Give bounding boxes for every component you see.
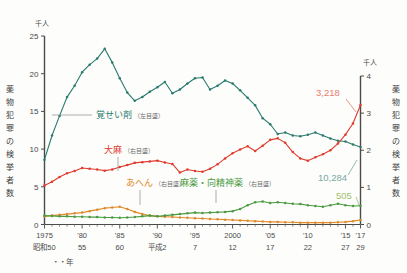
series-point xyxy=(96,216,99,219)
axis-title-char: 罪 xyxy=(6,124,14,133)
series-point xyxy=(254,104,257,107)
series-point xyxy=(118,217,121,220)
x-tick-label-japanese-era: 29 xyxy=(356,243,364,252)
series-point xyxy=(51,215,54,218)
series-point xyxy=(103,207,106,210)
series-point xyxy=(164,214,167,217)
left-tick-label: 20 xyxy=(30,70,39,79)
series-point xyxy=(179,216,182,219)
series-point xyxy=(322,221,325,224)
x-tick-label-western: '90 xyxy=(152,231,162,240)
left-axis-ticks: 2520151050 xyxy=(30,32,45,230)
x-tick-label-western: '95 xyxy=(190,231,200,240)
axis-title-char: 検 xyxy=(392,149,400,159)
right-tick-label: 4 xyxy=(367,72,372,81)
series-point xyxy=(194,211,197,214)
series-point xyxy=(73,212,76,215)
series-point xyxy=(194,217,197,220)
series-point xyxy=(344,204,347,207)
axis-title-char: 物 xyxy=(6,97,14,107)
x-tick-label-japanese-era: 60 xyxy=(116,243,124,252)
series-point xyxy=(51,181,54,184)
series-point xyxy=(246,204,249,207)
series-point xyxy=(322,134,325,137)
axis-title-char: 犯 xyxy=(392,110,400,120)
series-point xyxy=(73,85,76,88)
axis-title-char: 薬 xyxy=(392,84,400,94)
left-tick-label: 5 xyxy=(34,183,39,192)
series-point xyxy=(96,57,99,60)
series-point xyxy=(284,221,287,224)
series-point xyxy=(134,162,137,165)
series-point xyxy=(337,202,340,205)
series-point xyxy=(239,208,242,211)
series-point xyxy=(261,220,264,223)
series-point xyxy=(141,215,144,218)
axis-title-char: 罪 xyxy=(392,124,400,133)
series-point xyxy=(111,168,114,171)
series-point xyxy=(186,212,189,215)
series-point xyxy=(239,219,242,222)
series-point xyxy=(194,170,197,173)
series-point xyxy=(134,216,137,219)
x-tick-label-japanese-era: 22 xyxy=(304,243,312,252)
legend-label-覚せい剤: 覚せい剤（左目盛） xyxy=(96,109,164,120)
series-point xyxy=(359,104,362,107)
series-point xyxy=(141,161,144,164)
series-point xyxy=(186,217,189,220)
series-point xyxy=(73,215,76,218)
x-tick-label-japanese-era: 55 xyxy=(78,243,86,252)
left-tick-label: 0 xyxy=(34,221,39,230)
data-label-layer: 3,21810,284505 xyxy=(316,87,359,205)
axis-title-char: 挙 xyxy=(6,162,14,172)
right-axis-title: 薬物犯罪の検挙者数 xyxy=(392,84,400,198)
series-point xyxy=(58,176,61,179)
series-point xyxy=(149,160,152,163)
series-point xyxy=(307,221,310,224)
series-point xyxy=(269,221,272,224)
axis-title-char: 犯 xyxy=(6,110,14,120)
series-point xyxy=(307,134,310,137)
axis-title-char: の xyxy=(6,137,14,146)
series-point xyxy=(201,171,204,174)
series-point xyxy=(81,215,84,218)
series-point xyxy=(179,88,182,91)
series-point xyxy=(359,146,362,149)
series-point xyxy=(254,201,257,204)
series-point xyxy=(224,79,227,82)
series-point xyxy=(118,77,121,80)
series-point xyxy=(261,145,264,148)
x-tick-label-western: '17 xyxy=(356,231,366,240)
x-tick-label-japanese-era: 17 xyxy=(266,243,274,252)
series-point xyxy=(314,131,317,134)
series-point xyxy=(224,157,227,160)
series-point xyxy=(164,81,167,84)
x-tick-label-japanese-era: 12 xyxy=(228,243,236,252)
series-point xyxy=(96,208,99,211)
series-point xyxy=(156,215,159,218)
series-point xyxy=(111,61,114,64)
series-point xyxy=(73,170,76,173)
series-point xyxy=(246,97,249,100)
series-point xyxy=(126,208,129,211)
series-point xyxy=(231,210,234,213)
x-tick-label-western: '10 xyxy=(303,231,313,240)
series-point xyxy=(254,220,257,223)
series-point xyxy=(254,150,257,153)
axis-title-char: 検 xyxy=(6,149,14,159)
axis-title-char: 者 xyxy=(6,176,14,185)
series-point xyxy=(292,221,295,224)
x-tick-label-western: '15 xyxy=(341,231,351,240)
series-point xyxy=(329,149,332,152)
series-point xyxy=(337,221,340,224)
x-axis-tick-marks xyxy=(45,225,361,229)
series-point xyxy=(284,202,287,205)
series-point xyxy=(201,76,204,79)
series-point xyxy=(307,159,310,162)
series-point xyxy=(322,153,325,156)
series-point xyxy=(201,217,204,220)
series-point xyxy=(261,117,264,120)
axis-title-char: 者 xyxy=(392,176,400,185)
series-point xyxy=(269,123,272,126)
series-point xyxy=(179,213,182,216)
